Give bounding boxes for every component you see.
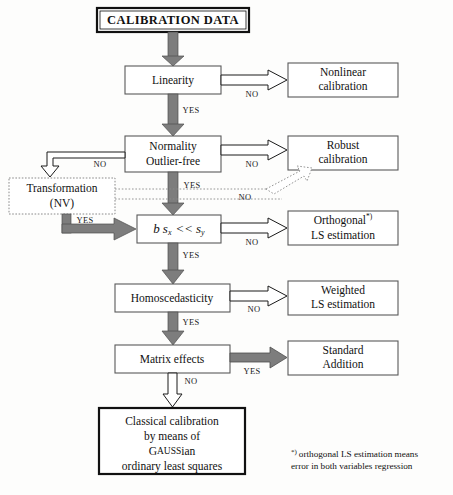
arrow-matrix-yes-to-standard-addition [230, 347, 287, 368]
orthogonal-ls-label-2: LS estimation [311, 229, 375, 241]
box-homoscedasticity: Homoscedasticity [115, 284, 230, 312]
label-matrix-no: NO [185, 376, 198, 386]
box-matrix-effects: Matrix effects [115, 345, 230, 373]
arrow-bsx-yes-to-homoscedasticity [162, 243, 184, 284]
footnote-line-2: error in both variables regression [291, 461, 413, 471]
arrow-bsx-no-to-orthogonal [221, 218, 287, 238]
weighted-ls-label-2: LS estimation [311, 298, 375, 310]
label-bsx-yes: YES [183, 250, 200, 260]
arrow-normality-no-to-transformation [41, 152, 125, 177]
arrow-linearity-no-to-nonlinear [221, 70, 287, 90]
weighted-ls-label-1: Weighted [321, 284, 365, 297]
label-linearity-no: NO [246, 89, 259, 99]
classical-calibration-line-2: by means of [144, 430, 200, 443]
footnote-text-1: orthogonal LS estimation means [299, 449, 419, 459]
box-linearity: Linearity [125, 66, 221, 94]
nonlinear-calibration-label-1: Nonlinear [320, 66, 366, 78]
gauss-ian: ian [181, 445, 195, 457]
transformation-label-2: (NV) [50, 197, 74, 210]
robust-calibration-label-1: Robust [327, 139, 360, 151]
matrix-effects-label: Matrix effects [140, 353, 205, 365]
footnote-line-1: *)orthogonal LS estimation means [291, 448, 418, 459]
box-classical-calibration: Classical calibration by means of GAUSSi… [99, 408, 245, 474]
arrow-normality-yes-to-bsx [162, 172, 184, 215]
gauss-g: G [149, 445, 157, 457]
label-homoscedasticity-yes: YES [183, 317, 200, 327]
calibration-data-label: CALIBRATION DATA [107, 13, 239, 27]
bsx-b: b [153, 221, 160, 236]
arrow-calibration-to-linearity [162, 32, 184, 66]
classical-calibration-line-1: Classical calibration [125, 415, 219, 427]
label-normality-no-right: NO [246, 159, 259, 169]
classical-calibration-line-4: ordinary least squares [122, 460, 223, 473]
standard-addition-label-1: Standard [323, 344, 364, 356]
standard-addition-label-2: Addition [323, 358, 364, 370]
homoscedasticity-label: Homoscedasticity [131, 292, 214, 305]
label-normality-yes: YES [184, 180, 201, 190]
arrow-normality-no-to-robust [221, 140, 287, 160]
label-linearity-yes: YES [183, 105, 200, 115]
classical-calibration-line-3: GAUSSian [149, 445, 196, 457]
box-robust-calibration: Robust calibration [288, 136, 398, 170]
label-transformation-no: NO [239, 192, 252, 202]
gauss-auss: AUSS [157, 446, 181, 456]
box-normality: Normality Outlier-free [125, 136, 221, 172]
label-transformation-yes: YES [77, 215, 94, 225]
arrow-matrix-no-to-classical [163, 373, 182, 407]
orthogonal-ls-label-1: Orthogonal*) [314, 212, 373, 227]
arrow-transformation-yes-to-bsx [62, 214, 136, 240]
footnote-marker: *) [291, 448, 298, 456]
transformation-label-1: Transformation [26, 182, 97, 194]
arrow-homoscedasticity-yes-to-matrix [162, 312, 184, 345]
orthogonal-ls-text: Orthogonal [314, 214, 366, 227]
box-calibration-data: CALIBRATION DATA [97, 8, 249, 32]
linearity-label: Linearity [152, 74, 194, 87]
box-transformation: Transformation (NV) [9, 178, 115, 214]
nonlinear-calibration-label-2: calibration [318, 80, 367, 92]
flowchart-canvas: CALIBRATION DATA Linearity Nonlinear cal… [0, 0, 453, 495]
robust-calibration-label-2: calibration [318, 153, 367, 165]
label-homoscedasticity-no: NO [248, 304, 261, 314]
label-bsx-no: NO [246, 237, 259, 247]
box-weighted-ls: Weighted LS estimation [288, 281, 398, 315]
footnote: *)orthogonal LS estimation means error i… [291, 448, 418, 471]
normality-label-1: Normality [149, 140, 197, 153]
bsx-sub2: y [200, 228, 205, 237]
flowchart-svg: CALIBRATION DATA Linearity Nonlinear cal… [0, 0, 453, 495]
normality-label-2: Outlier-free [146, 155, 200, 167]
box-standard-addition: Standard Addition [288, 341, 398, 375]
box-nonlinear-calibration: Nonlinear calibration [288, 63, 398, 97]
label-normality-no-left: NO [94, 159, 107, 169]
arrow-linearity-yes-to-normality [162, 94, 184, 136]
orthogonal-ls-superscript: *) [366, 212, 373, 221]
box-bsx-condition: bsx<<sy [137, 215, 221, 243]
label-matrix-yes: YES [244, 366, 261, 376]
bsx-sub1: x [167, 228, 172, 237]
bsx-op: << [175, 221, 193, 236]
box-orthogonal-ls: Orthogonal*) LS estimation [288, 211, 398, 245]
